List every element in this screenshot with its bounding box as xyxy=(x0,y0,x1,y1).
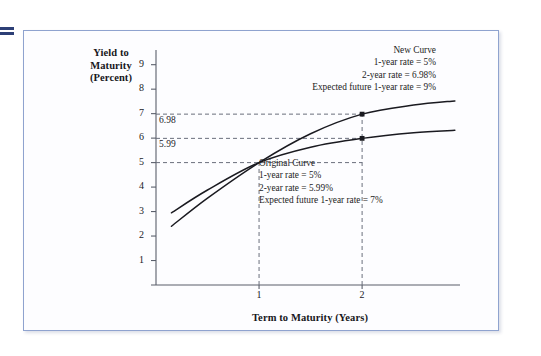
y-axis-title-line-2: Maturity xyxy=(90,60,132,71)
y-tick-label: 8 xyxy=(130,82,144,93)
annotation-original-curve: Original Curve 1-year rate = 5% 2-year r… xyxy=(259,157,383,207)
annotation-new-curve-line-3: 2-year rate = 6.98% xyxy=(312,69,436,81)
x-tick-label: 2 xyxy=(352,289,372,300)
x-axis-title: Term to Maturity (Years) xyxy=(190,312,430,325)
annotation-original-curve-line-4: Expected future 1-year rate = 7% xyxy=(259,194,383,206)
y-tick-label: 3 xyxy=(130,205,144,216)
page-edge-marker-bar-bottom xyxy=(0,32,14,35)
y-tick-label: 6 xyxy=(130,131,144,142)
y-axis-title-line-3: (Percent) xyxy=(90,72,132,83)
y-tick-label: 9 xyxy=(130,58,144,69)
y-tick-label: 5 xyxy=(130,156,144,167)
annotation-original-curve-line-2: 1-year rate = 5% xyxy=(259,169,383,181)
page-edge-marker xyxy=(0,27,14,36)
y-tick-label: 7 xyxy=(130,107,144,118)
annotation-new-curve-line-2: 1-year rate = 5% xyxy=(312,56,436,68)
reference-value-label: 6.98 xyxy=(159,115,176,125)
annotation-original-curve-line-1: Original Curve xyxy=(259,157,383,169)
annotation-original-curve-line-3: 2-year rate = 5.99% xyxy=(259,182,383,194)
annotation-new-curve: New Curve 1-year rate = 5% 2-year rate =… xyxy=(312,44,436,94)
page-edge-marker-bar-top xyxy=(0,27,14,30)
annotation-new-curve-line-4: Expected future 1-year rate = 9% xyxy=(312,81,436,93)
x-tick-label: 1 xyxy=(249,289,269,300)
reference-value-label: 5.99 xyxy=(159,139,176,149)
y-axis-title-line-1: Yield to xyxy=(93,47,129,58)
y-tick-label: 4 xyxy=(130,180,144,191)
y-tick-label: 1 xyxy=(130,254,144,265)
y-tick-label: 2 xyxy=(130,229,144,240)
annotation-new-curve-line-1: New Curve xyxy=(312,44,436,56)
